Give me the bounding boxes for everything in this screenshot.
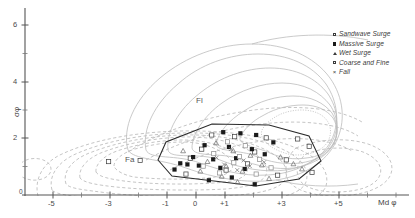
- data-point: [217, 171, 221, 175]
- legend-item-coarse-and-fine[interactable]: Coarse and Fine: [330, 58, 391, 67]
- legend-item-sandwave-surge[interactable]: Sandwave Surge: [330, 30, 391, 39]
- ytick-label-6: 6: [13, 20, 17, 29]
- data-point: [191, 155, 195, 159]
- x-axis-label: Md φ: [378, 198, 397, 207]
- data-point: [307, 144, 311, 148]
- data-point: [235, 168, 239, 172]
- data-point: [254, 133, 258, 137]
- xtick-label-1: +1: [220, 199, 229, 208]
- data-point: [202, 143, 206, 147]
- data-point: [225, 140, 229, 144]
- data-point: [238, 131, 242, 135]
- data-point: [253, 182, 257, 186]
- open-square-icon: [330, 33, 339, 36]
- data-point: [207, 178, 211, 182]
- data-point: [264, 136, 268, 140]
- field-label-fl: Fl: [196, 96, 203, 105]
- data-point: [243, 144, 247, 148]
- data-point: [237, 154, 241, 158]
- data-point: [224, 168, 228, 172]
- data-point: [178, 161, 182, 165]
- origin-label: 0: [19, 188, 23, 195]
- ytick-label-4: 4: [13, 77, 17, 86]
- legend-label: Massive Surge: [339, 41, 384, 48]
- legend-item-wet-surge[interactable]: Wet Surge: [330, 49, 391, 58]
- data-point: [263, 152, 267, 156]
- open-square-icon: [330, 61, 339, 64]
- legend-item-fall[interactable]: × Fall: [330, 68, 391, 77]
- data-point: [205, 159, 210, 163]
- field-label-fa: Fa: [125, 155, 134, 164]
- data-point: [269, 166, 273, 170]
- data-point: [221, 130, 225, 134]
- data-point: [267, 176, 272, 180]
- data-point: [271, 140, 275, 144]
- legend: Sandwave Surge Massive Surge Wet Surge C…: [330, 30, 391, 77]
- data-point: [212, 152, 216, 156]
- data-point: [276, 173, 280, 177]
- x-marker-icon: ×: [330, 69, 339, 75]
- grain-size-scatter-chart: 6 4 2 σφ -5 -3 -1 0 +1 +3 +5 0 Md φ Fl F…: [0, 0, 415, 218]
- data-point: [138, 158, 142, 162]
- data-point: [197, 163, 201, 167]
- ytick-label-2: 2: [13, 133, 17, 142]
- data-point: [218, 166, 222, 170]
- data-point: [296, 137, 300, 141]
- data-point: [250, 147, 254, 151]
- xtick-label--3: -3: [105, 199, 112, 208]
- legend-label: Wet Surge: [339, 50, 371, 57]
- data-point: [201, 164, 205, 168]
- data-point: [210, 133, 214, 137]
- data-point: [181, 148, 186, 152]
- xtick-label-0: 0: [193, 199, 197, 208]
- filled-square-icon: [330, 42, 339, 45]
- data-point: [185, 162, 189, 166]
- data-point: [200, 147, 204, 151]
- xtick-label-3: +3: [277, 199, 286, 208]
- legend-item-massive-surge[interactable]: Massive Surge: [330, 39, 391, 48]
- data-point: [284, 158, 288, 162]
- legend-label: Coarse and Fine: [339, 60, 389, 67]
- data-point: [258, 157, 262, 161]
- y-axis-label: σφ: [12, 107, 21, 117]
- data-point: [230, 175, 234, 179]
- data-point: [254, 172, 258, 176]
- data-point: [310, 170, 314, 174]
- xtick-label--5: -5: [48, 199, 55, 208]
- data-point: [184, 172, 188, 176]
- data-point: [107, 160, 111, 164]
- data-point: [172, 167, 176, 171]
- legend-label: Fall: [339, 69, 350, 76]
- data-point: [232, 161, 236, 165]
- xtick-label--1: -1: [162, 199, 169, 208]
- triangle-icon: [330, 52, 339, 55]
- xtick-label-5: +5: [334, 199, 343, 208]
- legend-label: Sandwave Surge: [339, 31, 391, 38]
- data-point: [233, 135, 237, 139]
